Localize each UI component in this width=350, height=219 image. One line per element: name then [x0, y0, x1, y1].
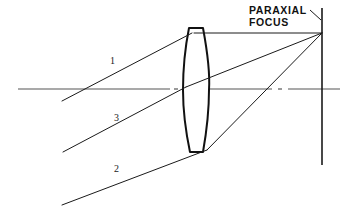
ray-2-outgoing	[207, 33, 322, 150]
biconvex-lens	[183, 28, 209, 152]
ray-3-outgoing	[186, 33, 322, 87]
ray-label-2: 2	[114, 164, 119, 174]
ray-3-incoming	[63, 87, 186, 152]
optics-canvas	[0, 0, 350, 219]
ray-2-incoming	[62, 150, 207, 205]
paraxial-focus-leader-line	[310, 10, 321, 20]
ray-1-incoming	[62, 33, 192, 101]
lens-ray-diagram: PARAXIAL FOCUS 1 3 2	[0, 0, 350, 219]
ray-label-3: 3	[114, 113, 119, 123]
ray-label-1: 1	[110, 56, 115, 66]
paraxial-focus-label: PARAXIAL FOCUS	[249, 5, 307, 28]
